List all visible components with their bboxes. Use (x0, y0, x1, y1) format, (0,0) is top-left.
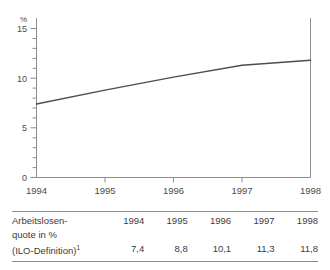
y-axis-major-ticks (31, 29, 37, 178)
table-header-year-1997: 1997 (231, 214, 274, 229)
table-row-label-cell: Arbeitslosen- quote in % (ILO-Definition… (12, 214, 101, 258)
x-tick-label-1997: 1997 (231, 185, 252, 196)
unemployment-line-chart: % 15 10 5 0 1994 1995 1996 1997 1998 (0, 0, 330, 205)
table-header-year-1996: 1996 (188, 214, 231, 229)
x-tick-label-1998: 1998 (300, 185, 321, 196)
x-tick-label-1995: 1995 (94, 185, 115, 196)
table-grid: Arbeitslosen- quote in % (ILO-Definition… (12, 214, 318, 258)
spacer-cell (144, 229, 187, 242)
y-tick-label-5: 5 (22, 123, 27, 133)
x-axis-ticks (105, 178, 242, 183)
y-tick-label-15: 15 (17, 24, 27, 34)
table-row-label-line-1: Arbeitslosen- (12, 214, 101, 228)
footnote-marker: 1 (76, 244, 80, 251)
table-top-rule (12, 211, 318, 212)
y-axis-unit-label: % (20, 15, 27, 24)
spacer-cell (101, 229, 144, 242)
table-value-1996: 10,1 (188, 242, 231, 257)
y-axis-minor-ticks (33, 39, 37, 168)
unemployment-rate-line (37, 60, 311, 104)
table-row-label-line-3: (ILO-Definition)1 (12, 241, 101, 258)
table-header-year-1995: 1995 (144, 214, 187, 229)
spacer-cell (188, 229, 231, 242)
y-tick-label-10: 10 (17, 74, 27, 84)
y-tick-label-0: 0 (22, 173, 27, 183)
table-bottom-rule (12, 261, 318, 262)
data-table: Arbeitslosen- quote in % (ILO-Definition… (0, 205, 330, 270)
spacer-cell (231, 229, 274, 242)
x-tick-label-1996: 1996 (163, 185, 184, 196)
table-value-1994: 7,4 (101, 242, 144, 257)
table-value-1995: 8,8 (144, 242, 187, 257)
table-header-year-1998: 1998 (275, 214, 318, 229)
table-row: Arbeitslosen- quote in % (ILO-Definition… (12, 214, 318, 229)
table-row-label-line-2: quote in % (12, 228, 101, 242)
spacer-cell (275, 229, 318, 242)
table-header-year-1994: 1994 (101, 214, 144, 229)
chart-plot-area: % 15 10 5 0 1994 1995 1996 1997 1998 (0, 0, 330, 205)
table-row-label-text-3: (ILO-Definition) (12, 245, 76, 256)
table-value-1998: 11,8 (275, 242, 318, 257)
x-tick-label-1994: 1994 (26, 185, 47, 196)
table-value-1997: 11,3 (231, 242, 274, 257)
